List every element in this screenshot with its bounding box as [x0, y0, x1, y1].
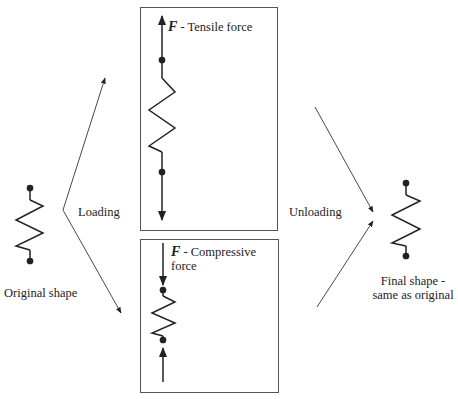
tensile-force-text: - Tensile force [177, 20, 252, 34]
compressive-force-text-line1: - Compressive [180, 245, 256, 259]
unloading-label: Unloading [289, 205, 342, 219]
compressive-force-text-line2: force [171, 259, 256, 273]
loading-arrows [63, 78, 121, 313]
final-shape-line1: Final shape - [368, 274, 458, 288]
final-spring-icon [392, 180, 420, 258]
final-shape-line2: same as original [368, 288, 458, 302]
final-shape-label: Final shape - same as original [368, 274, 458, 302]
original-shape-label: Original shape [4, 286, 77, 300]
tensile-spring-icon [149, 16, 175, 220]
tensile-force-label: F - Tensile force [168, 20, 252, 34]
force-symbol: F [168, 19, 177, 34]
loading-label: Loading [78, 205, 120, 219]
compressive-force-label: F - Compressive force [171, 245, 256, 273]
diagram-canvas [0, 0, 458, 399]
force-symbol: F [171, 244, 180, 259]
original-spring-icon [16, 185, 43, 263]
